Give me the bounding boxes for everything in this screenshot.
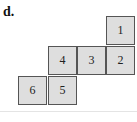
net-face-5: 5 [48,76,77,105]
net-face-4: 4 [48,46,77,75]
problem-label: d. [3,4,14,20]
net-face-2: 2 [106,46,135,75]
divider-line [0,111,137,112]
net-face-3: 3 [77,46,106,75]
net-face-1: 1 [106,16,135,45]
net-face-6: 6 [18,76,47,105]
